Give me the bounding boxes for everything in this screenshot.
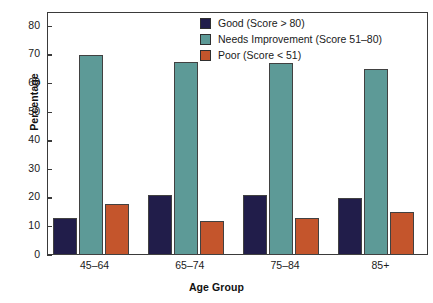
bar-7584-series2: [295, 218, 319, 255]
y-tick-label: 50: [10, 105, 40, 117]
y-tick-label: 10: [10, 219, 40, 231]
y-tick-label: 30: [10, 162, 40, 174]
bar-6574-series1: [174, 62, 198, 255]
bar-6574-series0: [148, 195, 172, 255]
chart-legend: Good (Score > 80)Needs Improvement (Scor…: [200, 16, 382, 62]
bar-7584-series1: [269, 63, 293, 255]
y-tick-mark: [47, 197, 52, 199]
bar-4564-series2: [105, 204, 129, 255]
y-tick-label: 80: [10, 19, 40, 31]
y-tick-label: 0: [10, 248, 40, 260]
x-tick-label: 45–64: [50, 259, 140, 271]
y-tick-label: 20: [10, 190, 40, 202]
legend-swatch-icon: [200, 50, 211, 61]
y-tick-mark: [47, 169, 52, 171]
x-tick-label: 75–84: [240, 259, 330, 271]
legend-item-2: Poor (Score < 51): [200, 48, 382, 62]
y-tick-mark: [47, 54, 52, 56]
y-tick-label: 40: [10, 133, 40, 145]
bar-4564-series0: [53, 218, 77, 255]
legend-label: Needs Improvement (Score 51–80): [218, 33, 382, 45]
y-tick-mark: [47, 226, 52, 228]
y-tick-mark: [47, 83, 52, 85]
y-tick-mark: [47, 112, 52, 114]
y-tick-mark: [47, 140, 52, 142]
bar-4564-series1: [79, 55, 103, 255]
legend-item-0: Good (Score > 80): [200, 16, 382, 30]
legend-label: Poor (Score < 51): [218, 49, 301, 61]
x-tick-label: 65–74: [145, 259, 235, 271]
y-tick-label: 60: [10, 76, 40, 88]
bar-85+-series2: [390, 212, 414, 255]
y-tick-mark: [47, 26, 52, 28]
legend-swatch-icon: [200, 18, 211, 29]
bar-6574-series2: [200, 221, 224, 255]
legend-label: Good (Score > 80): [218, 17, 305, 29]
legend-swatch-icon: [200, 34, 211, 45]
bar-85+-series1: [364, 69, 388, 255]
legend-item-1: Needs Improvement (Score 51–80): [200, 32, 382, 46]
bar-chart-figure: Percentage 01020304050607080 45–6465–747…: [0, 0, 433, 303]
x-tick-label: 85+: [335, 259, 425, 271]
bar-85+-series0: [338, 198, 362, 255]
x-axis-label: Age Group: [0, 281, 433, 293]
bar-7584-series0: [243, 195, 267, 255]
y-tick-mark: [47, 255, 52, 257]
y-tick-label: 70: [10, 47, 40, 59]
